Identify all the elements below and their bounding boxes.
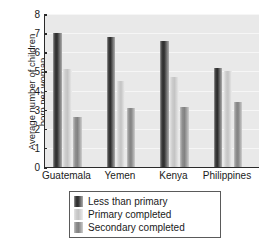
legend-label: Primary completed bbox=[88, 209, 171, 221]
y-axis-tick-label: 3 bbox=[20, 104, 40, 115]
legend-label: Less than primary bbox=[88, 196, 167, 208]
x-axis-tick-label: Guatemala bbox=[42, 170, 91, 181]
x-axis-tick-label: Philippines bbox=[203, 170, 251, 181]
legend-swatch-less-than-primary bbox=[74, 196, 83, 207]
y-axis-tick-mark bbox=[44, 129, 47, 131]
y-axis-tick-labels: 012345678 bbox=[18, 14, 40, 167]
y-axis-tick-label: 5 bbox=[20, 66, 40, 77]
chart-legend: Less than primary Primary completed Seco… bbox=[69, 191, 221, 238]
bar bbox=[234, 102, 243, 167]
y-axis-tick-mark bbox=[44, 167, 47, 169]
y-axis-tick-label: 4 bbox=[20, 85, 40, 96]
bar bbox=[214, 68, 223, 167]
y-axis-tick-mark bbox=[44, 148, 47, 150]
y-axis-tick-mark bbox=[44, 52, 47, 54]
x-axis-tick-label: Kenya bbox=[159, 170, 187, 181]
y-axis-tick-label: 0 bbox=[20, 162, 40, 173]
y-axis-tick-label: 6 bbox=[20, 47, 40, 58]
y-axis-tick-mark bbox=[44, 14, 47, 16]
y-axis-tick-label: 1 bbox=[20, 142, 40, 153]
y-axis-tick-mark bbox=[44, 91, 47, 93]
legend-item: Primary completed bbox=[74, 208, 215, 221]
x-axis-tick-labels: GuatemalaYemenKenyaPhilippines bbox=[44, 170, 258, 184]
legend-swatch-primary-completed bbox=[74, 209, 83, 220]
bar-chart-figure: Average number of children born per woma… bbox=[0, 0, 268, 250]
y-axis-tick-label: 2 bbox=[20, 123, 40, 134]
y-axis-tick-label: 8 bbox=[20, 9, 40, 20]
plot-area bbox=[45, 14, 259, 167]
plot-frame bbox=[44, 14, 259, 168]
legend-item: Secondary completed bbox=[74, 221, 215, 234]
legend-swatch-secondary-completed bbox=[74, 222, 83, 233]
bar-group bbox=[45, 14, 259, 167]
y-axis-tick-mark bbox=[44, 33, 47, 35]
y-axis-tick-mark bbox=[44, 110, 47, 112]
legend-label: Secondary completed bbox=[88, 222, 185, 234]
legend-item: Less than primary bbox=[74, 195, 215, 208]
bar bbox=[224, 71, 233, 167]
y-axis-tick-mark bbox=[44, 71, 47, 73]
x-axis-tick-label: Yemen bbox=[105, 170, 136, 181]
y-axis-tick-label: 7 bbox=[20, 28, 40, 39]
